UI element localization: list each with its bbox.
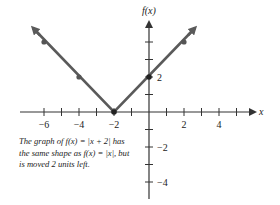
x-tick-label: −6 (39, 119, 50, 130)
y-axis-label: f(x) (142, 5, 157, 17)
caption-line: is moved 2 units left. (19, 159, 159, 171)
x-tick-label: −2 (109, 119, 120, 130)
graph-caption: The graph of f(x) = |x + 2| has the same… (19, 136, 159, 171)
y-tick-label: −4 (157, 177, 168, 188)
x-tick-label: 4 (217, 119, 222, 130)
y-tick-label: 2 (157, 72, 162, 83)
caption-line: the same shape as f(x) = |x|, but (19, 148, 159, 160)
function-graph: −6 −4 −2 2 4 2 −2 −4 x f(x) (0, 0, 280, 205)
caption-line: The graph of f(x) = |x + 2| has (19, 136, 159, 148)
x-axis-label: x (258, 106, 264, 117)
x-tick-label: −4 (74, 119, 85, 130)
absolute-value-curve (34, 29, 194, 112)
x-tick-label: 2 (182, 119, 187, 130)
data-points (41, 39, 186, 114)
